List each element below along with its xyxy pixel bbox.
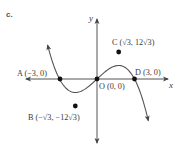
point-d (132, 77, 137, 82)
label-point-c: C (√3, 12√3) (112, 38, 155, 47)
x-axis-label: x (168, 80, 173, 90)
cubic-graph-figure: c. x y A (−3, 0) B (−√3, −12√3) O (0, 0)… (0, 0, 181, 149)
graph-canvas: c. x y A (−3, 0) B (−√3, −12√3) O (0, 0)… (0, 0, 181, 149)
point-o (95, 77, 100, 82)
point-b (73, 104, 78, 109)
part-label: c. (6, 10, 13, 19)
cubic-curve (48, 45, 149, 121)
label-point-b: B (−√3, −12√3) (28, 113, 80, 122)
point-c (116, 50, 121, 55)
label-point-a: A (−3, 0) (17, 69, 47, 78)
label-point-d: D (3, 0) (135, 68, 161, 77)
y-axis-label: y (88, 13, 93, 23)
point-a (58, 77, 63, 82)
label-point-o: O (0, 0) (99, 82, 125, 91)
